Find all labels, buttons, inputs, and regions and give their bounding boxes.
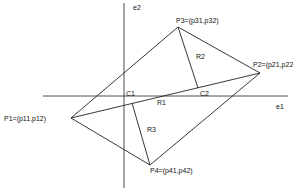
edge-p2-p4 [150, 73, 260, 165]
point-p3-label: P3=(p31,p32) [176, 17, 219, 25]
point-p2-label: P2=(p21,p22) [253, 61, 293, 69]
centroid-c2-label: C2 [200, 90, 209, 97]
axis-e1-label: e1 [276, 103, 284, 110]
quadrilateral-diagram: e1 e2 P1=(p11,p12) P2=(p21,p22) P3=(p31,… [0, 0, 293, 188]
point-p1-label: P1=(p11,p12) [4, 115, 46, 123]
region-r2-label: R2 [196, 53, 205, 60]
region-r1-label: R1 [157, 99, 166, 106]
point-p4-label: P4=(p41,p42) [150, 167, 193, 175]
edge-p3-p2 [178, 27, 260, 73]
axis-e2-label: e2 [133, 4, 141, 11]
centroid-c1-label: C1 [126, 90, 135, 97]
diagonal-p1-p2 [71, 73, 260, 118]
region-r3-label: R3 [147, 126, 156, 133]
